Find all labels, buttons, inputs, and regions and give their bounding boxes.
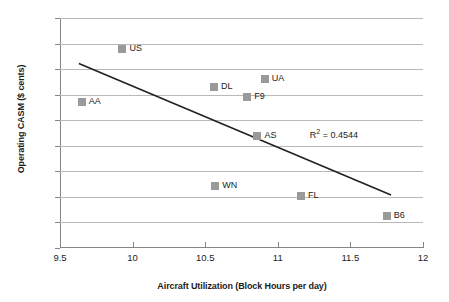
data-point-marker[interactable] xyxy=(253,132,261,140)
trendline xyxy=(60,18,423,248)
x-axis-tick-label: 10 xyxy=(113,252,153,263)
plot-area: 10111213141516171819 9.51010.51111.512 A… xyxy=(60,18,423,248)
x-axis-tick-label: 9.5 xyxy=(40,252,80,263)
data-point-label: AS xyxy=(264,130,276,140)
x-axis-tick-label: 12 xyxy=(403,252,443,263)
data-point-marker[interactable] xyxy=(261,75,269,83)
data-point-marker[interactable] xyxy=(78,98,86,106)
x-axis-tick-label: 11 xyxy=(258,252,298,263)
data-point-marker[interactable] xyxy=(211,182,219,190)
y-axis-tick-mark xyxy=(55,248,60,249)
scatter-chart: Operating CASM ($ cents) Aircraft Utiliz… xyxy=(0,0,449,302)
r-squared-annotation: R2 = 0.4544 xyxy=(310,128,358,140)
data-point-label: UA xyxy=(272,73,285,83)
x-axis-tick-label: 10.5 xyxy=(185,252,225,263)
x-axis-title: Aircraft Utilization (Block Hours per da… xyxy=(60,281,424,291)
r-squared-value: = 0.4544 xyxy=(320,130,358,140)
data-point-label: DL xyxy=(221,81,233,91)
y-axis-title: Operating CASM ($ cents) xyxy=(16,34,26,204)
x-axis-tick-label: 11.5 xyxy=(330,252,370,263)
data-point-label: WN xyxy=(222,180,237,190)
data-point-marker[interactable] xyxy=(243,93,251,101)
data-point-label: FL xyxy=(308,190,319,200)
data-point-label: F9 xyxy=(254,91,265,101)
data-point-marker[interactable] xyxy=(118,45,126,53)
data-point-marker[interactable] xyxy=(297,192,305,200)
data-point-marker[interactable] xyxy=(210,83,218,91)
data-point-label: B6 xyxy=(394,210,405,220)
x-axis-tick-mark xyxy=(423,242,424,248)
data-point-label: AA xyxy=(89,96,101,106)
data-point-label: US xyxy=(129,43,142,53)
data-point-marker[interactable] xyxy=(383,212,391,220)
